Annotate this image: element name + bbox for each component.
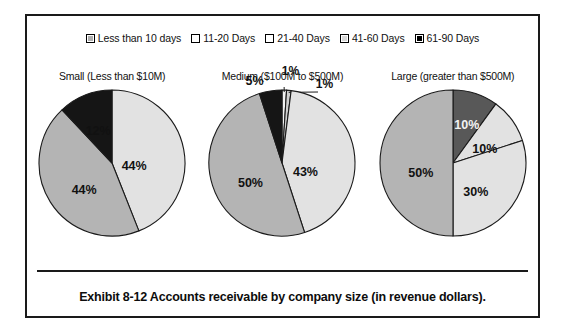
exhibit-caption: Exhibit 8-12 Accounts receivable by comp…	[27, 290, 538, 304]
legend-item: 41-60 Days	[340, 32, 405, 44]
legend-swatch-fill	[192, 35, 199, 42]
legend-swatch-icon	[86, 34, 95, 43]
legend-item: 21-40 Days	[265, 32, 330, 44]
legend-item: Less than 10 days	[86, 32, 182, 44]
legend-item-label: 61-90 Days	[427, 32, 480, 44]
legend-item-label: 21-40 Days	[277, 32, 330, 44]
legend-swatch-icon	[191, 34, 200, 43]
caption-divider	[37, 270, 528, 272]
pie-slice	[380, 90, 453, 236]
chart-legend: Less than 10 days11-20 Days21-40 Days41-…	[27, 32, 538, 44]
legend-item-label: 41-60 Days	[352, 32, 405, 44]
legend-swatch-icon	[415, 34, 424, 43]
pie-chart: Large (greater than $500M)10%10%30%50%	[370, 70, 535, 239]
pie-chart: Medium ($100M to $500M)1%1%43%50%5%	[200, 70, 365, 239]
legend-swatch-fill	[87, 35, 94, 42]
legend-swatch-icon	[265, 34, 274, 43]
legend-swatch-fill	[341, 35, 348, 42]
pie-canvas: 10%10%30%50%	[377, 87, 529, 239]
legend-item: 61-90 Days	[415, 32, 480, 44]
pie-canvas: 44%44%12%	[36, 87, 188, 239]
pie-canvas: 1%1%43%50%5%	[206, 87, 358, 239]
pie-chart-row: Small (Less than $10M)44%44%12%Medium ($…	[27, 70, 538, 239]
legend-swatch-fill	[416, 35, 423, 42]
legend-item-label: Less than 10 days	[98, 32, 182, 44]
exhibit-figure: Less than 10 days11-20 Days21-40 Days41-…	[25, 14, 540, 318]
pie-chart-title: Small (Less than $10M)	[59, 70, 165, 83]
pie-chart-title: Medium ($100M to $500M)	[222, 70, 343, 83]
pie-chart-title: Large (greater than $500M)	[391, 70, 514, 83]
legend-item-label: 11-20 Days	[203, 32, 255, 44]
legend-item: 11-20 Days	[191, 32, 255, 44]
legend-swatch-icon	[340, 34, 349, 43]
legend-swatch-fill	[266, 35, 273, 42]
pie-chart: Small (Less than $10M)44%44%12%	[30, 70, 195, 239]
